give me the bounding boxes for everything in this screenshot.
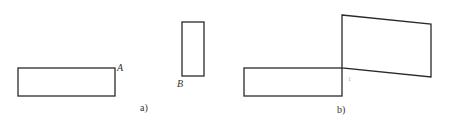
small-mark: 1 bbox=[348, 76, 351, 82]
rectangle-b bbox=[182, 22, 204, 76]
caption-a: a) bbox=[140, 102, 148, 114]
panel-a: A B a) bbox=[18, 22, 204, 114]
rotated-quadrilateral bbox=[342, 15, 431, 77]
rectangle-combined bbox=[244, 68, 342, 96]
label-b: B bbox=[177, 78, 183, 89]
panel-b: 1 b) bbox=[244, 15, 431, 116]
caption-b: b) bbox=[337, 104, 345, 116]
label-a: A bbox=[116, 62, 124, 73]
rectangle-a bbox=[18, 68, 115, 96]
figure-canvas: A B a) 1 b) bbox=[0, 0, 449, 124]
